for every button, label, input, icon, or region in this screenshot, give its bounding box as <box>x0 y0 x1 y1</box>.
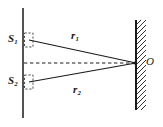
optics-double-slit-diagram: S1 S2 r1 r2 O <box>0 0 163 127</box>
point-o-marker <box>133 61 136 64</box>
label-ray-1-subscript: 1 <box>75 35 78 42</box>
diagram-canvas <box>0 0 163 127</box>
label-slit-1-subscript: 1 <box>14 38 17 45</box>
label-ray-2-subscript: 2 <box>77 89 80 96</box>
label-slit-2-subscript: 2 <box>14 80 17 87</box>
label-slit-2: S2 <box>8 75 18 86</box>
label-ray-2: r2 <box>73 84 81 95</box>
label-slit-1: S1 <box>8 33 18 44</box>
ray-line-r1 <box>29 40 136 63</box>
ray-line-r2 <box>29 63 136 82</box>
label-point-o: O <box>146 56 154 67</box>
label-ray-1: r1 <box>71 30 79 41</box>
